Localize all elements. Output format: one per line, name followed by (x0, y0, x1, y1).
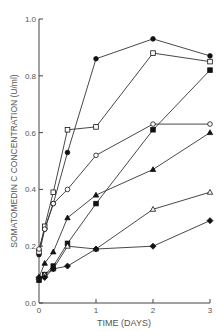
data-point-diamond-filled (207, 218, 213, 224)
y-tick-label: 0.0 (25, 299, 37, 308)
data-point-circle-open (151, 122, 156, 127)
series-line (39, 70, 210, 280)
data-point-circle-filled (151, 37, 156, 42)
series-square-open (37, 51, 213, 254)
series-circle-open (37, 122, 213, 252)
data-point-triangle-filled (51, 249, 56, 254)
x-tick-label: 1 (94, 306, 99, 315)
y-tick-label: 0.2 (25, 242, 37, 251)
x-tick-label: 2 (151, 306, 156, 315)
data-point-circle-open (65, 187, 70, 192)
data-point-circle-open (51, 201, 56, 206)
series-diamond-filled (36, 218, 213, 281)
data-point-square-filled (208, 68, 213, 73)
data-point-diamond-filled (150, 243, 156, 249)
y-tick-label: 0.8 (25, 72, 37, 81)
x-axis-label: TIME (DAYS) (97, 318, 151, 328)
data-point-circle-open (208, 122, 213, 127)
data-point-circle-filled (208, 54, 213, 59)
data-point-square-filled (94, 201, 99, 206)
series-line (39, 53, 210, 252)
data-point-triangle-filled (207, 130, 212, 135)
x-tick-label: 0 (37, 306, 42, 315)
data-point-square-open (65, 127, 70, 132)
series-triangle-open (36, 189, 212, 279)
data-point-square-open (208, 59, 213, 64)
series-circle-filled (37, 37, 213, 257)
data-point-triangle-filled (150, 167, 155, 172)
data-point-triangle-open (207, 189, 212, 194)
data-point-circle-open (42, 227, 47, 232)
y-tick-label: 0.4 (25, 185, 37, 194)
line-chart: 01230.00.20.40.60.81.0 TIME (DAYS) SOMAT… (0, 0, 224, 332)
series-line (39, 192, 210, 277)
data-point-circle-open (37, 247, 42, 252)
series-line (39, 133, 210, 278)
data-point-square-open (94, 125, 99, 130)
data-point-circle-open (94, 153, 99, 158)
y-tick-label: 1.0 (25, 15, 37, 24)
series-square-filled (37, 68, 213, 283)
data-point-circle-filled (94, 56, 99, 61)
series-line (39, 39, 210, 255)
y-axis-label: SOMATOMEDIN C CONCENTRATION (U/ml) (9, 74, 19, 247)
data-point-diamond-filled (65, 263, 71, 269)
series-group (36, 37, 213, 283)
data-point-square-open (151, 51, 156, 56)
data-point-square-filled (151, 127, 156, 132)
y-tick-label: 0.6 (25, 129, 37, 138)
x-tick-label: 3 (208, 306, 213, 315)
data-point-square-open (51, 190, 56, 195)
data-point-circle-filled (65, 150, 70, 155)
